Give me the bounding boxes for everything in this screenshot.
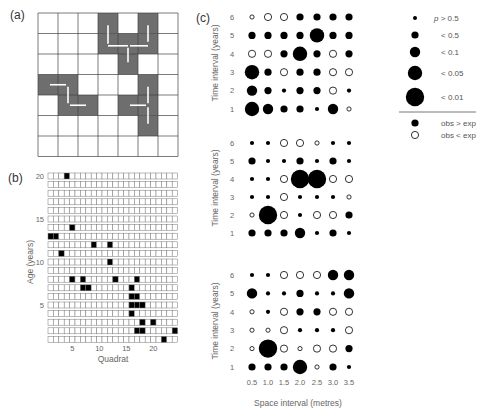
bubble-obs-lt-exp xyxy=(280,69,287,76)
bubble-obs-gt-exp xyxy=(313,50,320,57)
empty-quadrat xyxy=(86,328,91,334)
empty-quadrat xyxy=(118,319,123,325)
empty-quadrat xyxy=(64,259,69,265)
empty-quadrat xyxy=(91,216,96,222)
bubble-obs-gt-exp xyxy=(264,87,271,94)
bubble-obs-gt-exp xyxy=(250,273,254,277)
empty-quadrat xyxy=(70,336,75,342)
empty-quadrat xyxy=(167,328,172,334)
occupied-quadrat xyxy=(48,233,53,239)
empty-quadrat xyxy=(107,285,112,291)
empty-quadrat xyxy=(53,242,58,248)
empty-quadrat xyxy=(107,182,112,188)
empty-quadrat xyxy=(75,207,80,213)
empty-quadrat xyxy=(156,302,161,308)
empty-quadrat xyxy=(156,319,161,325)
time-interval-axis-title: Time interval (years) xyxy=(210,24,220,101)
empty-quadrat xyxy=(145,233,150,239)
empty-quadrat xyxy=(140,268,145,274)
empty-quadrat xyxy=(86,259,91,265)
empty-quadrat xyxy=(102,259,107,265)
bubble-obs-gt-exp xyxy=(328,270,338,280)
empty-quadrat xyxy=(107,328,112,334)
empty-quadrat xyxy=(102,207,107,213)
empty-quadrat xyxy=(118,225,123,231)
empty-quadrat xyxy=(53,285,58,291)
empty-quadrat xyxy=(91,190,96,196)
empty-quadrat xyxy=(53,216,58,222)
space-interval-tick: 1.0 xyxy=(263,378,273,387)
occupied-quadrat xyxy=(53,233,58,239)
empty-quadrat xyxy=(53,276,58,282)
bubble-obs-lt-exp xyxy=(329,87,336,94)
empty-quadrat xyxy=(48,285,53,291)
empty-quadrat xyxy=(53,293,58,299)
bubble-obs-lt-exp xyxy=(345,69,352,76)
empty-quadrat xyxy=(145,259,150,265)
occupied-quadrat xyxy=(107,259,112,265)
empty-quadrat xyxy=(124,182,129,188)
empty-quadrat xyxy=(97,311,102,317)
empty-quadrat xyxy=(107,293,112,299)
legend-dot-lt001-icon xyxy=(406,88,424,106)
y-tick-label: 20 xyxy=(36,172,44,181)
empty-quadrat xyxy=(113,233,118,239)
empty-quadrat xyxy=(64,207,69,213)
occupied-quadrat xyxy=(151,319,156,325)
bubble-obs-gt-exp xyxy=(248,157,255,164)
empty-quadrat xyxy=(91,173,96,179)
bubble-obs-lt-exp xyxy=(280,211,287,218)
empty-quadrat xyxy=(59,285,64,291)
empty-quadrat xyxy=(134,285,139,291)
empty-quadrat xyxy=(156,199,161,205)
space-interval-tick: 2.5 xyxy=(312,378,322,387)
empty-quadrat xyxy=(140,250,145,256)
empty-quadrat xyxy=(70,190,75,196)
empty-quadrat xyxy=(151,225,156,231)
empty-quadrat xyxy=(80,216,85,222)
empty-quadrat xyxy=(91,311,96,317)
empty-quadrat xyxy=(118,328,123,334)
empty-quadrat xyxy=(172,319,177,325)
panel-b-ylabel: Age (years) xyxy=(25,240,35,284)
empty-quadrat xyxy=(80,293,85,299)
empty-quadrat xyxy=(145,199,150,205)
empty-quadrat xyxy=(75,302,80,308)
empty-quadrat xyxy=(172,311,177,317)
empty-quadrat xyxy=(86,293,91,299)
empty-quadrat xyxy=(102,199,107,205)
empty-quadrat xyxy=(129,233,134,239)
occupied-quadrat xyxy=(59,250,64,256)
y-tick-label: 15 xyxy=(36,215,44,224)
bubble-obs-gt-exp xyxy=(266,310,270,314)
bubble-obs-gt-exp xyxy=(329,13,336,20)
empty-quadrat xyxy=(161,276,166,282)
x-tick-label: 15 xyxy=(122,344,130,353)
bubble-obs-gt-exp xyxy=(264,363,271,370)
empty-quadrat xyxy=(134,207,139,213)
empty-quadrat xyxy=(151,182,156,188)
empty-quadrat xyxy=(172,190,177,196)
legend-filled-dot-icon xyxy=(411,119,418,126)
empty-quadrat xyxy=(64,311,69,317)
bubble-obs-lt-exp xyxy=(280,271,287,278)
empty-quadrat xyxy=(70,199,75,205)
empty-quadrat xyxy=(156,285,161,291)
bubble-obs-lt-exp xyxy=(329,50,336,57)
empty-quadrat xyxy=(59,182,64,188)
bubble-obs-gt-exp xyxy=(296,87,303,94)
empty-quadrat xyxy=(156,233,161,239)
occupied-quadrat xyxy=(172,328,177,334)
empty-quadrat xyxy=(140,199,145,205)
empty-quadrat xyxy=(172,216,177,222)
bubble-obs-gt-exp xyxy=(345,50,352,57)
bubble-obs-gt-exp xyxy=(329,32,336,39)
empty-quadrat xyxy=(145,242,150,248)
bubble-obs-gt-exp xyxy=(315,231,319,235)
empty-quadrat xyxy=(86,250,91,256)
empty-quadrat xyxy=(48,302,53,308)
occupied-quadrat xyxy=(70,276,75,282)
empty-quadrat xyxy=(97,319,102,325)
empty-quadrat xyxy=(91,328,96,334)
empty-quadrat xyxy=(97,225,102,231)
